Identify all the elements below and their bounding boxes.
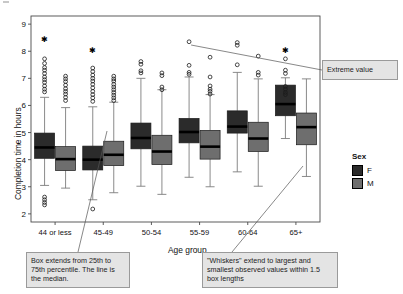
box-iqr [200,130,220,159]
y-tick-label: 6 [22,101,27,110]
y-tick-label: 3 [22,183,27,192]
box-iqr [248,122,268,151]
y-tick-label: 4 [22,156,27,165]
x-tick-label: 45-49 [94,228,113,237]
x-tick-label: 50-54 [142,228,161,237]
legend-entry-f: F [352,165,372,176]
legend-swatch-m [352,178,363,189]
box-iqr [296,113,316,145]
annotation-whiskers: "Whiskers" extend to largest and smalles… [202,252,338,288]
y-tick-label: 2 [22,210,27,219]
box-iqr [179,118,199,142]
box-iqr [227,111,247,133]
x-tick-label: 44 or less [39,228,72,237]
plot-canvas: 2345678944 or less45-4950-5455-5960-6465… [0,0,403,294]
legend-label-m: M [367,179,374,188]
y-tick-label: 5 [22,129,27,138]
box-iqr [131,123,151,149]
legend-label-f: F [367,166,372,175]
x-tick-label: 55-59 [190,228,209,237]
box-iqr [35,133,55,158]
x-tick-label: 65+ [289,228,302,237]
y-tick-label: 7 [22,74,27,83]
annotation-box-percentile: Box extends from 25th to 75th percentile… [26,252,130,288]
plot-frame [31,16,320,222]
y-tick-label: 9 [22,20,27,29]
box-iqr [275,85,295,116]
y-tick-label: 8 [22,47,27,56]
box-iqr [104,141,124,165]
extreme-value-point: ✱ [282,46,289,55]
extreme-value-point: ✱ [41,35,48,44]
box-iqr [152,135,172,164]
annotation-extreme-value: Extreme value [322,60,398,80]
legend-entry-m: M [352,178,374,189]
boxplot-figure: Completion time in hours Age group 23456… [0,0,403,294]
extreme-value-point: ✱ [89,46,96,55]
legend-swatch-f [352,165,363,176]
box-iqr [83,146,103,170]
legend-title: Sex [352,152,366,161]
